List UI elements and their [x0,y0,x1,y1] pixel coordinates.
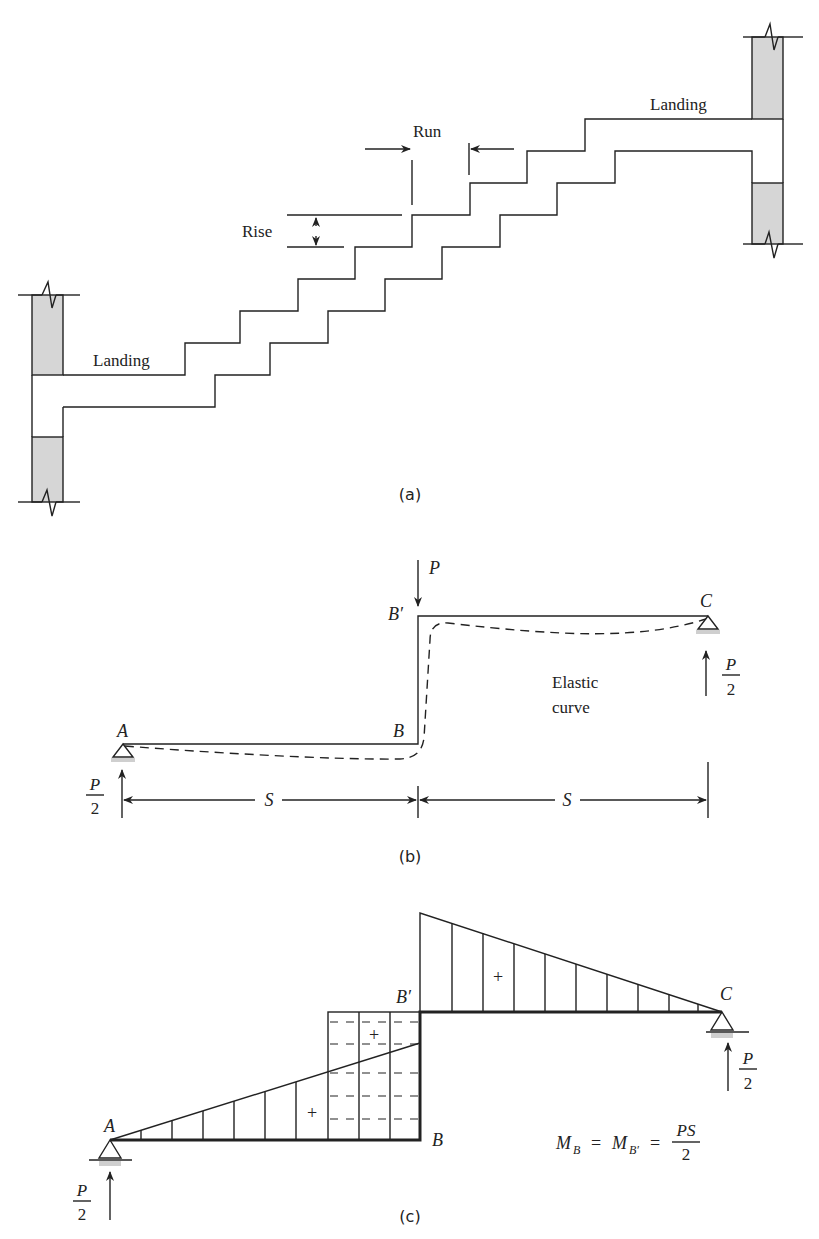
rise-dimension [287,215,402,247]
point-c-label: C [700,591,713,611]
eq-m: M [555,1133,572,1153]
span-right-label: S [563,790,572,810]
elastic-curve-label-1: Elastic [552,673,599,692]
hatch-lines-lower [141,1082,296,1140]
reaction-right-denominator: 2 [727,680,736,699]
eq-m2: M [611,1133,628,1153]
eq-denominator: 2 [682,1145,691,1164]
landing-upper-label: Landing [650,95,707,114]
right-wall-upper [752,37,783,119]
reaction-left-numerator: P [76,1181,87,1200]
caption-a: (a) [399,485,421,504]
run-label: Run [413,122,442,141]
eq-equals-2: = [650,1133,660,1153]
reaction-right-numerator: P [725,655,736,674]
reaction-left-denominator: 2 [91,799,100,818]
reaction-left-denominator: 2 [78,1205,87,1224]
point-b-prime-label: B′ [396,987,412,1007]
sign-lower: + [307,1103,317,1123]
moment-equation: M B = M B′ = PS 2 [555,1121,700,1164]
stair-beam [123,616,708,744]
eq-equals-1: = [591,1133,601,1153]
span-dimension [124,762,708,818]
point-b-prime-label: B′ [388,604,404,624]
point-c-label: C [720,984,733,1004]
span-left-label: S [265,790,274,810]
staircase-section: Run Rise Landing Landing (a) [18,24,803,516]
reaction-right-denominator: 2 [744,1074,753,1093]
moment-triangle-upper [420,913,722,1012]
run-dimension [365,143,514,205]
sign-upper: + [493,967,503,987]
caption-c: (c) [399,1207,420,1226]
eq-sub-b: B [573,1143,581,1157]
eq-sub-b-prime: B′ [629,1143,639,1157]
point-a-label: A [103,1116,116,1136]
staircase-figure: Run Rise Landing Landing (a) P [0,0,819,1239]
hatch-lines-upper [452,923,698,1012]
point-a-label: A [116,721,129,741]
pin-support-icon [89,1140,132,1166]
reaction-left-numerator: P [89,775,100,794]
beam-axis [110,1012,722,1140]
stair-bottom-profile [63,151,752,407]
pin-support-icon [696,616,720,634]
sign-rect: + [369,1025,379,1045]
structural-model: P A B B′ C Elastic curve P 2 P 2 [86,558,740,866]
caption-b: (b) [399,847,422,866]
moment-diagram: + + + [73,913,757,1226]
stair-top-profile [63,119,752,375]
elastic-curve [125,619,706,759]
pin-support-icon [706,1012,749,1038]
elastic-curve-label-2: curve [552,698,590,717]
rise-label: Rise [242,222,272,241]
point-b-label: B [393,721,404,741]
landing-lower-label: Landing [93,351,150,370]
point-b-label: B [432,1130,443,1150]
eq-numerator: PS [676,1121,696,1140]
load-label: P [428,558,440,578]
left-wall-upper [32,295,63,375]
reaction-right-numerator: P [742,1049,753,1068]
